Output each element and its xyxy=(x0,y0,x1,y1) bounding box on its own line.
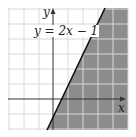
graph xyxy=(0,0,136,137)
equation-label: y = 2x − 1 xyxy=(33,25,99,37)
x-axis-label: x xyxy=(118,102,125,114)
y-axis-label: y xyxy=(43,6,50,18)
